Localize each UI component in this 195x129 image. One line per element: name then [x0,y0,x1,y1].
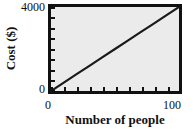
x-tick [51,87,53,91]
y-tick [51,7,55,9]
x-tick [77,87,79,91]
y-axis-title: Cost ($) [4,13,17,85]
x-axis-tick-label-max: 100 [163,99,181,111]
x-tick [142,87,144,91]
x-tick [116,87,118,91]
x-tick [155,87,157,91]
x-tick [64,87,66,91]
x-axis-tick-label-min: 0 [45,99,51,111]
x-tick [179,87,181,91]
series-line-cost [51,7,179,91]
y-tick [51,70,55,72]
plot-area [48,4,182,94]
x-tick [103,87,105,91]
plot-inner [51,7,179,91]
x-tick [129,87,131,91]
y-axis-tick-label-min: 0 [39,83,45,95]
line-chart: 4000 0 0 100 Cost ($) Number of people [0,0,195,129]
y-tick [51,80,55,82]
data-series-svg [51,7,179,91]
y-axis-tick-label-max: 4000 [21,1,45,13]
x-axis-title: Number of people [48,113,182,126]
y-tick [51,17,55,19]
x-tick [90,87,92,91]
y-tick [51,49,55,51]
x-tick [168,87,170,91]
y-tick [51,28,55,30]
y-tick [51,38,55,40]
y-tick [51,59,55,61]
